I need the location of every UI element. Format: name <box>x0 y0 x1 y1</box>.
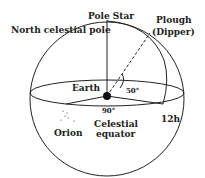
north-celestial-pole-label: North celestial pole <box>11 25 111 35</box>
dipper-label: (Dipper) <box>152 27 195 37</box>
earth-label: Earth <box>72 83 100 93</box>
orion-label: Orion <box>54 128 83 138</box>
equator-label: equator <box>96 129 135 139</box>
plough-label: Plough <box>156 15 192 25</box>
line-to-orion <box>66 96 107 104</box>
angle-90-label: 90° <box>102 106 115 116</box>
line-to-12h <box>107 96 163 104</box>
angle-50-arc <box>120 74 124 88</box>
celestial-label: Celestial <box>94 119 138 129</box>
earth-dot <box>103 92 111 100</box>
12h-label: 12h <box>161 114 180 124</box>
orion-stars <box>60 110 74 121</box>
pole-star-label: Pole Star <box>88 11 134 21</box>
angle-50-label: 50° <box>126 86 139 96</box>
